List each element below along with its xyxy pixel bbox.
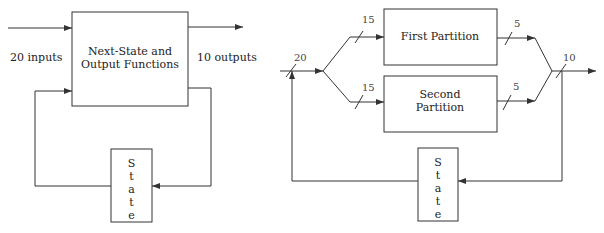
state-letter: t xyxy=(436,169,441,182)
first-output-width: 5 xyxy=(514,18,520,29)
input-label: 20 inputs xyxy=(10,51,63,64)
state-letter: t xyxy=(129,196,134,209)
second-input-width: 15 xyxy=(362,82,375,93)
bus-slash-5b xyxy=(503,95,511,110)
left-diagram: Next-State and Output Functions 20 input… xyxy=(8,12,257,222)
right-diagram: 20 15 15 First Partition Second Partitio… xyxy=(280,9,596,221)
second-output-width: 5 xyxy=(513,81,519,92)
state-letter: a xyxy=(128,183,135,196)
first-input-width: 15 xyxy=(362,14,375,25)
state-letter: S xyxy=(128,157,136,170)
main-box-line1: Next-State and xyxy=(88,45,172,58)
state-letter: t xyxy=(129,170,134,183)
main-box-line2: Output Functions xyxy=(81,58,179,71)
split-to-second xyxy=(323,71,384,102)
input-bus-width: 20 xyxy=(294,52,307,63)
first-partition-label: First Partition xyxy=(401,30,479,43)
state-letter: t xyxy=(436,195,441,208)
output-label: 10 outputs xyxy=(197,51,257,64)
state-letter: S xyxy=(434,156,442,169)
split-to-first xyxy=(323,37,384,71)
state-letter: a xyxy=(435,182,442,195)
state-letter: e xyxy=(435,208,442,221)
merge-lines xyxy=(535,38,552,101)
state-machine-partition-diagram: Next-State and Output Functions 20 input… xyxy=(0,0,604,233)
second-partition-line1: Second xyxy=(420,88,461,101)
second-partition-line2: Partition xyxy=(416,101,464,114)
output-bus-width: 10 xyxy=(563,52,576,63)
state-letter: e xyxy=(128,209,135,222)
